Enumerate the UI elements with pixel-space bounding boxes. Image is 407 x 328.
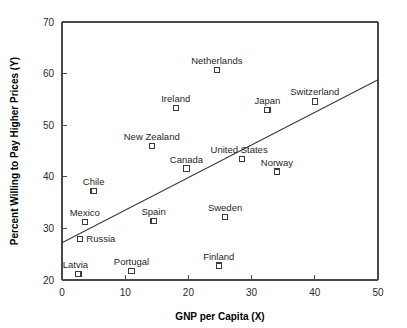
data-point-marker (312, 99, 317, 104)
data-point-marker (274, 169, 279, 174)
x-tick-label: 20 (183, 287, 195, 298)
data-point-label: Japan (254, 95, 280, 106)
y-tick-label: 30 (43, 223, 55, 234)
data-point-label: Ireland (161, 93, 190, 104)
data-point-label: New Zealand (124, 131, 180, 142)
data-point-label: Norway (261, 157, 293, 168)
data-point-label: Russia (86, 233, 116, 244)
data-point-label: Sweden (208, 202, 242, 213)
data-point-label: Spain (141, 206, 165, 217)
y-tick-label: 60 (43, 68, 55, 79)
data-point-marker (91, 189, 96, 194)
x-axis-title: GNP per Capita (X) (175, 311, 264, 322)
data-point-label: Portugal (114, 256, 149, 267)
data-point-marker (216, 263, 221, 268)
data-point-label: Chile (83, 176, 105, 187)
data-point-marker (78, 236, 83, 241)
y-tick-label: 50 (43, 120, 55, 131)
data-point-label: Latvia (63, 259, 89, 270)
y-tick-label: 20 (43, 275, 55, 286)
data-point-label: United States (211, 144, 268, 155)
data-point-label: Netherlands (191, 55, 242, 66)
chart-background (0, 0, 407, 328)
data-point-label: Finland (203, 251, 234, 262)
data-point-marker (82, 219, 87, 224)
x-tick-label: 10 (120, 287, 132, 298)
chart-canvas: 01020304050 203040506070 LatviaRussiaMex… (0, 0, 407, 328)
x-tick-label: 40 (309, 287, 321, 298)
y-tick-label: 70 (43, 17, 55, 28)
data-point-marker (265, 107, 270, 112)
data-point-marker (184, 166, 189, 171)
x-tick-label: 0 (59, 287, 65, 298)
data-point-label: Switzerland (290, 86, 339, 97)
y-axis-title: Percent Willing to Pay Higher Prices (Y) (9, 57, 20, 245)
data-point-marker (129, 268, 134, 273)
x-tick-label: 30 (246, 287, 258, 298)
data-point-label: Mexico (70, 207, 100, 218)
data-point-label: Canada (170, 154, 204, 165)
x-tick-label: 50 (372, 287, 384, 298)
data-point-marker (222, 214, 227, 219)
data-point-marker (173, 106, 178, 111)
data-point-marker (76, 271, 81, 276)
data-point-marker (240, 156, 245, 161)
scatter-plot-figure: 01020304050 203040506070 LatviaRussiaMex… (0, 0, 407, 328)
data-point-marker (151, 218, 156, 223)
data-point-marker (214, 67, 219, 72)
y-tick-label: 40 (43, 171, 55, 182)
data-point-marker (149, 143, 154, 148)
